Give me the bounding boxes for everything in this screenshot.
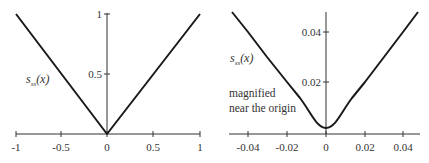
left-xtick-label: 0.5 (146, 141, 160, 153)
figure: -1 -0.5 0 0.5 1 1 0.5 sss(x) -0.04 -0.02… (0, 0, 429, 163)
right-xtick-label: -0.04 (237, 141, 260, 153)
right-ytick-label: 0.02 (302, 76, 321, 88)
left-ytick-label: 1 (97, 8, 103, 20)
right-xtick-label: -0.02 (276, 141, 299, 153)
right-function-label: sss(x) (230, 51, 253, 67)
left-ytick-label: 0.5 (88, 68, 102, 80)
right-xtick-label: 0.04 (393, 141, 413, 153)
annotation-line-2: near the origin (229, 102, 296, 115)
left-function-label: sss(x) (26, 72, 49, 88)
left-xtick-label: 1 (197, 141, 203, 153)
right-xtick-label: 0.02 (355, 141, 374, 153)
right-ytick-label: 0.04 (302, 26, 322, 38)
right-xtick-label: 0 (323, 141, 329, 153)
left-xtick-label: -0.5 (52, 141, 70, 153)
left-chart: -1 -0.5 0 0.5 1 1 0.5 sss(x) (11, 8, 202, 153)
left-xtick-label: 0 (104, 141, 110, 153)
left-xtick-label: -1 (11, 141, 20, 153)
annotation-line-1: magnified (229, 87, 276, 100)
right-chart: -0.04 -0.02 0 0.02 0.04 0.04 0.02 sss(x)… (229, 12, 420, 153)
